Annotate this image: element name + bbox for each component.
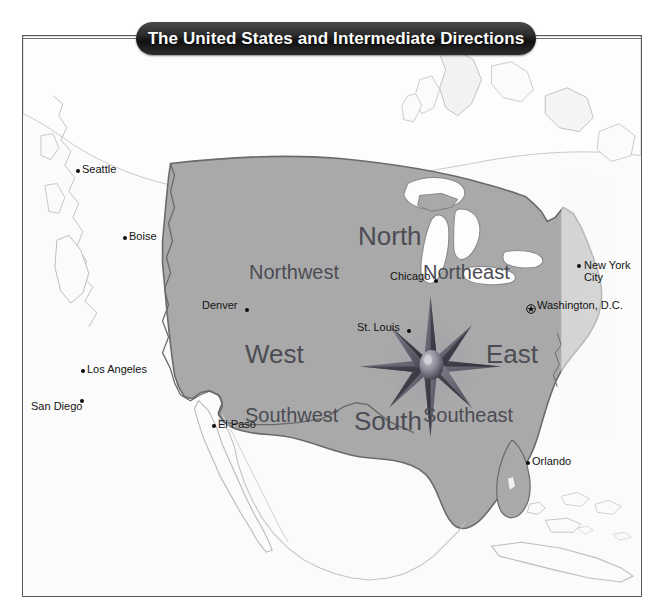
map-graphic <box>23 36 641 596</box>
city-label-los-angeles: Los Angeles <box>87 364 147 376</box>
map-frame: North Northeast East Southeast South Sou… <box>22 35 642 597</box>
city-dot-denver <box>245 308 249 312</box>
direction-label-southeast: Southeast <box>423 404 513 427</box>
city-label-orlando: Orlando <box>532 456 571 468</box>
ghost-artifact <box>150 85 154 100</box>
map-title: The United States and Intermediate Direc… <box>148 29 525 49</box>
city-label-new-york-line1: New York <box>584 259 630 271</box>
city-label-san-diego: San Diego <box>31 401 82 413</box>
city-dot-los-angeles <box>81 369 85 373</box>
title-banner: The United States and Intermediate Direc… <box>136 22 536 55</box>
city-dot-boise <box>123 236 127 240</box>
city-label-boise: Boise <box>129 231 157 243</box>
ghost-artifact <box>160 110 164 125</box>
direction-label-south: South <box>354 406 422 437</box>
city-label-denver: Denver <box>202 300 237 312</box>
direction-label-southwest: Southwest <box>245 404 338 427</box>
direction-label-northwest: Northwest <box>249 261 339 284</box>
city-dot-orlando <box>526 461 530 465</box>
city-dot-san-diego <box>80 399 84 403</box>
city-label-washington-dc: Washington, D.C. <box>537 300 623 312</box>
banner-rule-right <box>532 38 642 39</box>
banner-rule-left <box>22 38 140 39</box>
city-dot-new-york-city <box>577 264 581 268</box>
direction-label-north: North <box>358 221 422 252</box>
city-dot-el-paso <box>212 424 216 428</box>
direction-label-east: East <box>486 339 538 370</box>
city-label-st-louis: St. Louis <box>357 322 400 334</box>
capital-star-icon <box>526 300 535 309</box>
city-label-new-york-city: New York City <box>584 260 630 283</box>
city-label-new-york-line2: City <box>584 271 603 283</box>
city-label-seattle: Seattle <box>82 164 116 176</box>
direction-label-northeast: Northeast <box>423 261 510 284</box>
direction-label-west: West <box>245 339 304 370</box>
city-dot-st-louis <box>407 329 411 333</box>
map-page: North Northeast East Southeast South Sou… <box>0 0 660 615</box>
city-dot-seattle <box>76 169 80 173</box>
